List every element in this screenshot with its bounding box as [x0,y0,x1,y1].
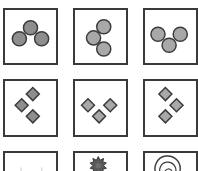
spiral-icon [145,153,196,171]
puzzle-cell-r1c3 [143,8,198,65]
three-diamonds-chevron-left-icon [5,81,56,135]
puzzle-cell-r3c2 [73,151,128,171]
three-diamonds-v-icon [75,81,126,135]
puzzle-cell-r2c2 [73,79,128,137]
puzzle-cell-r3c3 [143,151,198,171]
puzzle-cell-r2c3 [143,79,198,137]
puzzle-cell-r3c1 [3,151,58,171]
faint-marks-icon [5,153,56,171]
puzzle-cell-r2c1 [3,79,58,137]
three-circles-chevron-left-icon [75,10,126,63]
puzzle-cell-r1c2 [73,8,128,65]
three-diamonds-chevron-right-icon [145,81,196,135]
gear-star-icon [75,153,126,171]
three-circles-arch-icon [5,10,56,63]
puzzle-cell-r1c1 [3,8,58,65]
three-circles-v-icon [145,10,196,63]
